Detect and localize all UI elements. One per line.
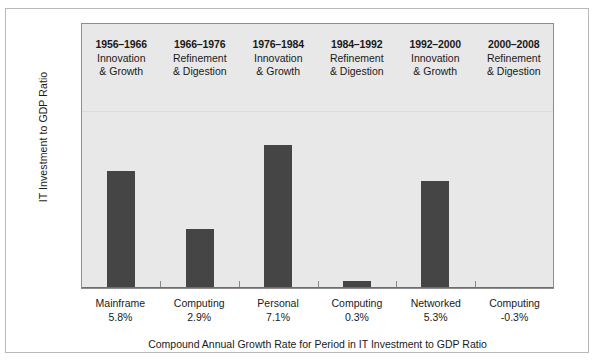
x-axis-title: Compound Annual Growth Rate for Period i…: [81, 338, 554, 350]
bar-slot: [475, 112, 554, 287]
period-line1: Refinement: [487, 52, 541, 66]
x-category-name: Computing: [475, 297, 554, 311]
x-category-name: Personal: [239, 297, 318, 311]
x-category-name: Mainframe: [81, 297, 160, 311]
bar-slot: [239, 112, 318, 287]
period-years: 1984–1992: [331, 38, 383, 52]
axis-tick: [318, 281, 319, 287]
x-category-value: 5.3%: [396, 311, 475, 325]
period-line2: & Growth: [413, 65, 457, 79]
zero-axis-line: [82, 287, 553, 288]
x-category-value: 5.8%: [81, 311, 160, 325]
period-line1: Refinement: [330, 52, 384, 66]
bar: [107, 171, 135, 287]
bar: [264, 145, 292, 287]
x-category-name: Computing: [317, 297, 396, 311]
axis-tick: [239, 281, 240, 287]
period-header-cell: 1984–1992 Refinement & Digestion: [318, 24, 397, 111]
period-line1: Innovation: [97, 52, 145, 66]
x-label-cell: Networked 5.3%: [396, 297, 475, 324]
bar-slot: [318, 112, 397, 287]
bar: [186, 229, 214, 287]
axis-tick: [160, 281, 161, 287]
period-years: 1956–1966: [95, 38, 147, 52]
period-line2: & Growth: [256, 65, 300, 79]
period-years: 1976–1984: [252, 38, 304, 52]
bars-region: [82, 112, 553, 288]
period-line1: Innovation: [411, 52, 459, 66]
period-header-cell: 1992–2000 Innovation & Growth: [396, 24, 475, 111]
period-years: 1992–2000: [409, 38, 461, 52]
period-line1: Innovation: [254, 52, 302, 66]
x-category-value: -0.3%: [475, 311, 554, 325]
period-line2: & Digestion: [330, 65, 384, 79]
x-label-cell: Computing -0.3%: [475, 297, 554, 324]
period-header-cell: 2000–2008 Refinement & Digestion: [475, 24, 554, 111]
period-header-band: 1956–1966 Innovation & Growth 1966–1976 …: [82, 24, 553, 112]
y-axis-title: IT Investment to GDP Ratio: [37, 57, 49, 217]
x-category-value: 7.1%: [239, 311, 318, 325]
period-line1: Refinement: [173, 52, 227, 66]
period-years: 2000–2008: [488, 38, 540, 52]
period-years: 1966–1976: [174, 38, 226, 52]
bar-series: [82, 112, 553, 287]
x-label-cell: Computing 2.9%: [160, 297, 239, 324]
x-category-value: 0.3%: [317, 311, 396, 325]
period-header-cell: 1966–1976 Refinement & Digestion: [161, 24, 240, 111]
bar-slot: [396, 112, 475, 287]
period-line2: & Digestion: [487, 65, 541, 79]
figure-frame: IT Investment to GDP Ratio 1956–1966 Inn…: [5, 8, 589, 353]
bar-slot: [82, 112, 161, 287]
period-line2: & Growth: [99, 65, 143, 79]
x-category-name: Networked: [396, 297, 475, 311]
period-header-cell: 1956–1966 Innovation & Growth: [82, 24, 161, 111]
plot-area: 1956–1966 Innovation & Growth 1966–1976 …: [81, 23, 554, 289]
period-line2: & Digestion: [173, 65, 227, 79]
period-header-cell: 1976–1984 Innovation & Growth: [239, 24, 318, 111]
x-label-cell: Computing 0.3%: [317, 297, 396, 324]
bar-slot: [161, 112, 240, 287]
x-category-value: 2.9%: [160, 311, 239, 325]
axis-tick: [396, 281, 397, 287]
bar: [421, 181, 449, 287]
x-label-cell: Personal 7.1%: [239, 297, 318, 324]
x-label-cell: Mainframe 5.8%: [81, 297, 160, 324]
axis-tick: [475, 281, 476, 287]
x-category-name: Computing: [160, 297, 239, 311]
x-axis-labels: Mainframe 5.8% Computing 2.9% Personal 7…: [81, 297, 554, 324]
